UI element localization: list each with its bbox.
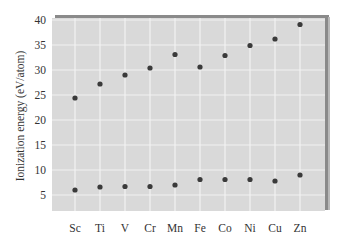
data-point [197, 177, 202, 182]
data-point [172, 52, 177, 57]
x-tick-label: Cr [144, 222, 156, 234]
data-point [272, 178, 277, 183]
x-tick-label: Sc [69, 222, 81, 234]
data-point [147, 65, 152, 70]
data-point [197, 64, 202, 69]
data-point [297, 172, 302, 177]
y-tick-label: 30 [35, 64, 47, 76]
data-point [147, 184, 152, 189]
data-point [97, 81, 102, 86]
data-point [172, 182, 177, 187]
chart: 510152025303540 ScTiVCrMnFeCoNiCuZn Ioni… [0, 0, 348, 246]
data-point [72, 95, 77, 100]
data-point [72, 187, 77, 192]
x-tick-label: Co [218, 222, 232, 234]
plot-area [52, 18, 325, 211]
y-axis-label: Ionization energy (eV/atom) [14, 50, 27, 181]
x-tick-label: Cu [268, 222, 282, 234]
x-tick-label: Mn [167, 222, 183, 234]
data-point [122, 184, 127, 189]
y-tick-label: 15 [35, 139, 47, 151]
x-tick-label: Zn [294, 222, 307, 234]
y-tick-label: 25 [35, 89, 47, 101]
y-tick-label: 10 [35, 164, 47, 176]
x-tick-label: Ti [95, 222, 105, 234]
y-axis-ticks: 510152025303540 [35, 14, 47, 201]
x-tick-label: V [121, 222, 130, 234]
y-tick-label: 35 [35, 39, 47, 51]
data-point [222, 53, 227, 58]
x-tick-label: Fe [194, 222, 206, 234]
y-tick-label: 5 [40, 189, 46, 201]
data-point [297, 22, 302, 27]
y-tick-label: 20 [35, 114, 47, 126]
y-tick-label: 40 [35, 14, 47, 26]
data-point [272, 36, 277, 41]
x-axis-ticks: ScTiVCrMnFeCoNiCuZn [69, 222, 306, 234]
x-tick-label: Ni [244, 222, 256, 234]
data-point [222, 177, 227, 182]
data-point [247, 177, 252, 182]
data-point [122, 72, 127, 77]
data-point [97, 184, 102, 189]
data-point [247, 43, 252, 48]
